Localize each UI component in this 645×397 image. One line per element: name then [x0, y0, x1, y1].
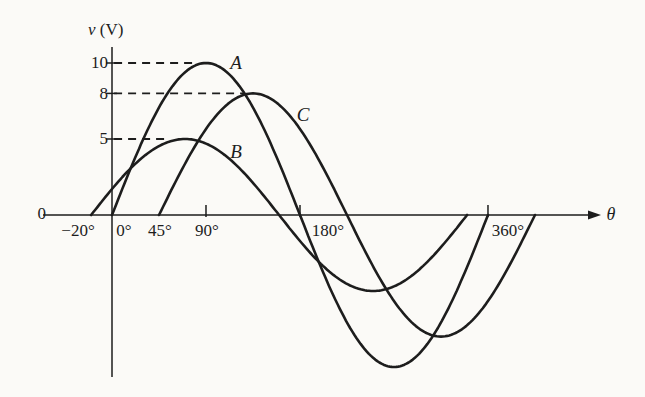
x-tick-label-0: 0°: [116, 221, 131, 240]
x-axis-title: θ: [607, 205, 616, 224]
curve-label-C: C: [297, 105, 310, 124]
y-axis-unit: (V): [100, 20, 124, 39]
x-tick-label-180: 180°: [312, 221, 344, 240]
x-tick-label-360: 360°: [492, 221, 524, 240]
y-tick-label-10: 10: [72, 53, 108, 72]
y-tick-label-8: 8: [72, 84, 108, 103]
x-tick-label-90: 90°: [195, 221, 219, 240]
waveform-phase-figure: v (V) 10 8 5 0 −20° 0° 45° 90° 180° 360°…: [0, 0, 645, 397]
y-axis-title: v (V): [88, 20, 123, 39]
x-axis-arrowhead: [588, 210, 601, 219]
origin-label: 0: [28, 204, 46, 223]
y-tick-label-5: 5: [72, 129, 108, 148]
x-tick-label-neg20: −20°: [61, 221, 94, 240]
y-axis-symbol: v: [88, 20, 96, 39]
x-tick-label-45: 45°: [148, 221, 172, 240]
curve-label-B: B: [230, 142, 242, 161]
curve-label-A: A: [230, 53, 242, 72]
